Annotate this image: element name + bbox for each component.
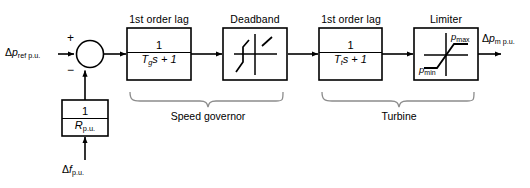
droop-gain-denominator: Rp.u. (62, 119, 108, 133)
droop-gain-numerator: 1 (62, 105, 108, 119)
block-diagram-canvas: 1st order lag Deadband 1st order lag Lim… (0, 0, 530, 188)
summing-junction (77, 41, 104, 68)
turbine-lag-denominator: Tts + 1 (319, 53, 382, 67)
transfer-function-droop-gain: 1 Rp.u. (62, 105, 108, 132)
block-title-governor-lag: 1st order lag (117, 13, 201, 25)
signal-label-mechanical-power: Δpm p.u. (482, 32, 515, 44)
signal-label-frequency-deviation: Δfp.u. (62, 163, 84, 175)
transfer-function-governor-lag: 1 Tgs + 1 (127, 39, 191, 66)
sum-plus-sign: + (67, 32, 74, 44)
turbine-lag-numerator: 1 (319, 39, 382, 53)
limiter-max-label: pmax (451, 31, 470, 42)
block-title-limiter: Limiter (404, 13, 488, 25)
signal-label-reference-power: Δpref p.u. (5, 46, 40, 58)
transfer-function-turbine-lag: 1 Tts + 1 (319, 39, 382, 66)
speed-governor-brace (130, 92, 283, 107)
governor-lag-denominator: Tgs + 1 (127, 53, 191, 67)
block-title-deadband: Deadband (213, 13, 297, 25)
diagram-vector-layer (0, 0, 530, 188)
brace-label-speed-governor: Speed governor (158, 110, 258, 122)
turbine-brace (322, 92, 474, 107)
sum-minus-sign: − (67, 64, 74, 76)
governor-lag-numerator: 1 (127, 39, 191, 53)
block-title-turbine-lag: 1st order lag (309, 13, 393, 25)
brace-label-turbine: Turbine (349, 110, 449, 122)
limiter-min-label: pmin (419, 64, 436, 75)
